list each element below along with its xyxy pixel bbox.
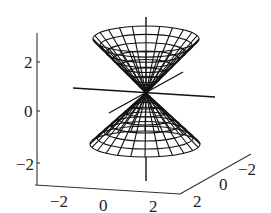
z-tick-0: 0 xyxy=(24,102,33,121)
upper-cone-surface xyxy=(93,26,199,93)
x-tick-2: 2 xyxy=(149,197,158,213)
x-tick-neg2: −2 xyxy=(50,192,68,211)
y-tick-0: 0 xyxy=(219,175,228,194)
double-cone-3d-plot: 2 0 −2 −2 0 2 2 0 −2 xyxy=(0,0,271,213)
lower-cone-radial-line xyxy=(106,93,146,135)
lower-cone-surface xyxy=(90,93,200,157)
lower-cone-radial-line xyxy=(146,93,184,135)
z-tick-neg2: −2 xyxy=(16,155,34,174)
y-tick-neg2: −2 xyxy=(238,160,256,179)
z-tick-2: 2 xyxy=(24,53,33,72)
x-tick-0: 0 xyxy=(99,196,108,213)
y-tick-2: 2 xyxy=(193,192,202,211)
